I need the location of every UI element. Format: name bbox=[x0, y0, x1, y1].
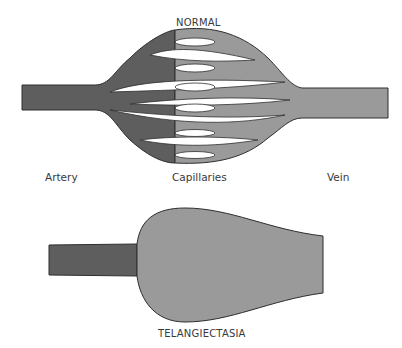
telangiectasia-vessel bbox=[49, 208, 323, 322]
artery-segment bbox=[49, 244, 137, 276]
dilated-vessel bbox=[137, 208, 323, 322]
normal-vessel-network bbox=[22, 28, 388, 163]
artery-label: Artery bbox=[45, 171, 78, 183]
normal-title: NORMAL bbox=[176, 17, 221, 28]
vein-label: Vein bbox=[327, 171, 349, 183]
telangiectasia-title: TELANGIECTASIA bbox=[158, 328, 246, 339]
capillaries-label: Capillaries bbox=[172, 171, 227, 183]
artery-segment bbox=[22, 30, 175, 163]
